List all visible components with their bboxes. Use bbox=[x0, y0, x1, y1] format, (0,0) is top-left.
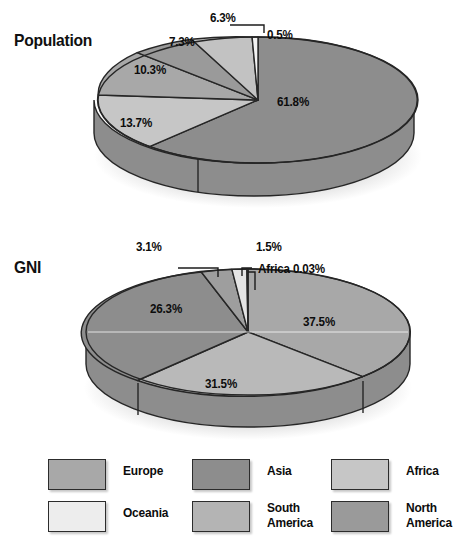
legend-item-africa: Africa bbox=[321, 458, 460, 498]
legend-swatch-north-america bbox=[331, 501, 389, 532]
legend-label-south-america: South America bbox=[267, 500, 313, 530]
legend-row: Europe Asia Africa bbox=[0, 458, 460, 498]
legend-item-north-america: North America bbox=[321, 500, 460, 540]
legend-swatch-africa bbox=[331, 459, 389, 490]
chart-title-gni: GNI bbox=[14, 258, 41, 278]
legend-swatch-south-america bbox=[192, 501, 250, 532]
chart-title-population: Population bbox=[14, 31, 92, 51]
label-population-africa: 13.7% bbox=[120, 116, 152, 130]
label-gni-oceania: 1.5% bbox=[256, 240, 282, 254]
label-population-south-america: 6.3% bbox=[210, 11, 236, 25]
legend-item-europe: Europe bbox=[0, 458, 182, 498]
label-population-oceania: 0.5% bbox=[267, 28, 293, 42]
legend-label-asia: Asia bbox=[267, 458, 292, 478]
label-gni-africa: Africa 0.03% bbox=[258, 262, 325, 276]
legend-item-asia: Asia bbox=[182, 458, 321, 498]
legend-swatch-asia bbox=[192, 459, 250, 490]
legend-row: Oceania South America North America bbox=[0, 500, 460, 540]
legend-item-south-america: South America bbox=[182, 500, 321, 540]
legend-label-europe: Europe bbox=[123, 458, 163, 478]
legend-item-oceania: Oceania bbox=[0, 500, 182, 540]
chart-population: Population bbox=[0, 0, 460, 228]
legend-label-oceania: Oceania bbox=[123, 500, 168, 520]
label-population-asia: 61.8% bbox=[277, 95, 309, 109]
figure-canvas: Population bbox=[0, 0, 460, 541]
legend-swatch-oceania bbox=[48, 501, 106, 532]
pie-gni bbox=[82, 238, 412, 450]
legend-label-north-america: North America bbox=[406, 500, 452, 530]
label-population-north-america: 7.3% bbox=[169, 35, 195, 49]
label-gni-europe: 37.5% bbox=[303, 315, 335, 329]
label-gni-south-america: 3.1% bbox=[136, 240, 162, 254]
legend-label-africa: Africa bbox=[406, 458, 439, 478]
label-gni-asia: 26.3% bbox=[150, 302, 182, 316]
label-gni-north-america: 31.5% bbox=[205, 377, 237, 391]
legend: Europe Asia Africa Oceania South America bbox=[0, 456, 460, 541]
legend-swatch-europe bbox=[48, 459, 106, 490]
chart-gni: GNI bbox=[0, 228, 460, 456]
pie-population bbox=[92, 4, 422, 219]
label-population-europe: 10.3% bbox=[134, 63, 166, 77]
